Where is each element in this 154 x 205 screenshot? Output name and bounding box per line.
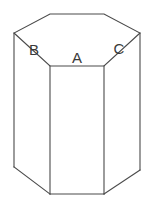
label-a: A [72,49,82,66]
hexagonal-prism-figure: B A C [0,0,154,205]
front-face [50,66,104,194]
label-b: B [29,41,39,58]
prism-drawing-canvas: B A C [0,0,154,205]
label-c: C [114,40,125,57]
